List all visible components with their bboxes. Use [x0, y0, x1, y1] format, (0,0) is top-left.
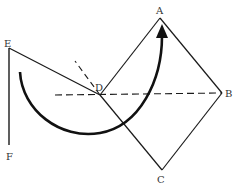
geometry-diagram: A B C D E F	[0, 0, 238, 187]
segment-da	[100, 18, 160, 95]
segment-cd	[100, 95, 162, 170]
label-d: D	[95, 82, 103, 93]
segment-ab	[160, 18, 222, 93]
dashed-horizontal-db	[55, 93, 222, 95]
label-f: F	[6, 151, 13, 162]
label-e: E	[4, 38, 11, 49]
label-b: B	[225, 88, 232, 99]
label-c: C	[157, 174, 165, 185]
segment-bc	[162, 93, 222, 170]
rotation-arrow	[20, 36, 162, 134]
label-a: A	[155, 5, 164, 16]
